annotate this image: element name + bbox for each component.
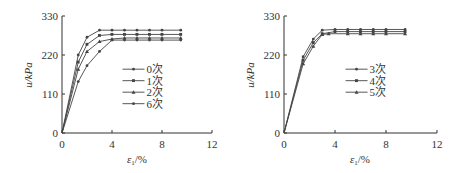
marker-dot (148, 39, 151, 42)
marker-dot (161, 29, 164, 32)
marker-dot (161, 39, 164, 42)
left-x-tick-12: 12 (207, 138, 218, 150)
marker-dot (123, 29, 126, 32)
right-y-tick-0: 0 (275, 127, 281, 139)
left-plot-area (62, 16, 212, 133)
legend-label: 1次 (147, 74, 164, 87)
right-y-tick-110: 110 (264, 88, 281, 100)
legend-label: 6次 (147, 97, 164, 110)
right-legend: 3次4次5次 (346, 62, 387, 98)
right-x-tick-0: 0 (281, 138, 287, 150)
marker-square (334, 30, 337, 33)
right-plot-area (284, 16, 437, 133)
marker-square (123, 33, 126, 36)
marker-square (302, 59, 305, 62)
marker-dot (179, 29, 182, 32)
left-y-axis-label: u/kPa (22, 62, 34, 88)
left-chart: 330 220 110 0 0 4 8 12 u/kPa ε1/% 0次1次2次… (0, 0, 230, 173)
marker-square (355, 79, 358, 82)
marker-square (161, 33, 164, 36)
legend-label: 2次 (147, 85, 164, 98)
left-legend: 0次1次2次6次 (123, 62, 164, 110)
marker-dot (86, 64, 89, 67)
marker-dot (132, 68, 135, 71)
marker-dot (132, 102, 135, 105)
marker-dot (111, 39, 114, 42)
right-x-tick-12: 12 (432, 138, 443, 150)
marker-dot (77, 54, 80, 57)
right-y-tick-220: 220 (264, 49, 281, 61)
marker-dot (148, 29, 151, 32)
marker-dot (111, 29, 114, 32)
left-y-tick-220: 220 (42, 49, 59, 61)
marker-square (77, 61, 80, 64)
marker-dot (355, 68, 358, 71)
marker-square (179, 33, 182, 36)
left-y-tick-330: 330 (42, 10, 59, 22)
right-y-tick-330: 330 (264, 10, 281, 22)
marker-dot (98, 50, 101, 53)
marker-square (132, 79, 135, 82)
left-x-axis-label: ε1/% (127, 153, 147, 167)
marker-dot (86, 36, 89, 39)
marker-dot (98, 29, 101, 32)
marker-dot (136, 39, 139, 42)
marker-dot (136, 29, 139, 32)
marker-square (98, 34, 101, 37)
right-y-axis-label: u/kPa (244, 62, 256, 88)
legend-label: 0次 (147, 62, 164, 75)
marker-dot (321, 29, 324, 32)
marker-square (148, 33, 151, 36)
series-line (284, 29, 405, 133)
left-y-tick-110: 110 (42, 88, 59, 100)
right-x-tick-4: 4 (332, 138, 338, 150)
left-x-tick-0: 0 (59, 138, 65, 150)
marker-square (312, 41, 315, 44)
series-line (284, 32, 405, 133)
marker-dot (312, 38, 315, 41)
legend-label: 3次 (370, 62, 387, 75)
right-x-tick-8: 8 (383, 138, 389, 150)
marker-dot (77, 80, 80, 83)
marker-square (136, 33, 139, 36)
right-x-axis-label: ε1/% (350, 153, 370, 167)
left-x-tick-4: 4 (109, 138, 115, 150)
right-chart: 330 220 110 0 0 4 8 12 u/kPa ε1/% 3次4次5次 (230, 0, 461, 173)
left-y-tick-0: 0 (53, 127, 59, 139)
marker-dot (179, 39, 182, 42)
marker-square (111, 33, 114, 36)
marker-dot (123, 39, 126, 42)
marker-square (86, 43, 89, 46)
left-x-tick-8: 8 (159, 138, 165, 150)
legend-label: 4次 (370, 74, 387, 87)
series-line (284, 34, 405, 133)
legend-label: 5次 (370, 85, 387, 98)
